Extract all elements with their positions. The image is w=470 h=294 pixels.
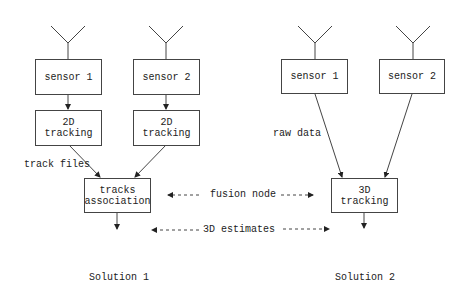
sol1-2d-tracking2-box: 2D tracking xyxy=(133,110,200,146)
antenna-icon xyxy=(149,26,183,59)
sol2-3d-tracking-box: 3D tracking xyxy=(331,178,398,213)
sol2-sensor1-box: sensor 1 xyxy=(281,59,348,94)
solution2-caption: Solution 2 xyxy=(335,272,395,283)
sol1-tracking2-label: 2D tracking xyxy=(134,117,199,139)
track-files-label: track files xyxy=(24,159,90,170)
sol1-sensor2-label: sensor 2 xyxy=(142,72,190,83)
antenna-icon xyxy=(396,26,430,59)
diagram-connectors xyxy=(0,0,470,294)
sol2-sensor1-label: sensor 1 xyxy=(290,71,338,82)
raw-data-label: raw data xyxy=(273,128,321,139)
sol2-sensor2-box: sensor 2 xyxy=(379,59,445,94)
sol2-sensor2-label: sensor 2 xyxy=(388,71,436,82)
solution1-caption: Solution 1 xyxy=(89,272,149,283)
sol1-association-box: tracks association xyxy=(84,178,151,213)
fusion-node-label: fusion node xyxy=(210,189,276,200)
sol2-tracking-label: 3D tracking xyxy=(332,185,397,207)
association-label-line2: association xyxy=(85,196,151,207)
sol1-sensor1-label: sensor 1 xyxy=(44,72,92,83)
association-label-line1: tracks xyxy=(99,185,135,196)
sol1-tracking1-label: 2D tracking xyxy=(36,117,101,139)
sol1-sensor1-box: sensor 1 xyxy=(35,59,102,95)
antenna-icon xyxy=(51,26,85,59)
sol1-2d-tracking1-box: 2D tracking xyxy=(35,110,102,146)
sol1-sensor2-box: sensor 2 xyxy=(133,59,200,95)
3d-estimates-label: 3D estimates xyxy=(203,224,275,235)
antenna-icon xyxy=(298,26,332,59)
